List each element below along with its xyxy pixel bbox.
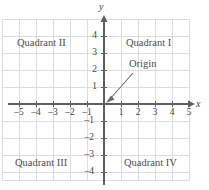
x-tick-label-2: 2 xyxy=(131,108,145,118)
y-tick-label-neg2: –2 xyxy=(80,133,94,143)
quadrant-label-II: Quadrant II xyxy=(17,38,66,49)
y-axis xyxy=(101,15,108,185)
y-tick-label-4: 4 xyxy=(83,31,97,41)
x-tick-label-4: 4 xyxy=(165,108,179,118)
y-tick-label-neg1: –1 xyxy=(80,116,94,126)
y-tick-label-2: 2 xyxy=(83,65,97,75)
x-tick-label-neg5: –5 xyxy=(12,108,26,118)
x-axis-label: x xyxy=(196,99,200,109)
x-tick-label-neg3: –3 xyxy=(46,108,60,118)
y-tick-label-neg3: –3 xyxy=(80,150,94,160)
x-tick-label-5: 5 xyxy=(182,108,196,118)
coordinate-plane-figure: x y –5 –4 –3 –2 –1 1 2 3 4 5 4 3 2 1 –1 … xyxy=(0,0,209,190)
origin-annotation-label: Origin xyxy=(129,59,156,70)
y-tick-label-neg4: –4 xyxy=(80,167,94,177)
origin-arrowhead xyxy=(106,96,115,103)
x-tick-label-neg4: –4 xyxy=(29,108,43,118)
quadrant-label-IV: Quadrant IV xyxy=(124,158,177,169)
quadrant-label-III: Quadrant III xyxy=(15,158,67,169)
y-tick-label-3: 3 xyxy=(83,48,97,58)
x-tick-label-neg2: –2 xyxy=(63,108,77,118)
y-tick-label-1: 1 xyxy=(83,82,97,92)
x-tick-label-1: 1 xyxy=(114,108,128,118)
y-axis-label: y xyxy=(99,2,103,12)
x-tick-label-3: 3 xyxy=(148,108,162,118)
origin-annotation-arrow xyxy=(106,73,133,103)
quadrant-label-I: Quadrant I xyxy=(126,38,171,49)
